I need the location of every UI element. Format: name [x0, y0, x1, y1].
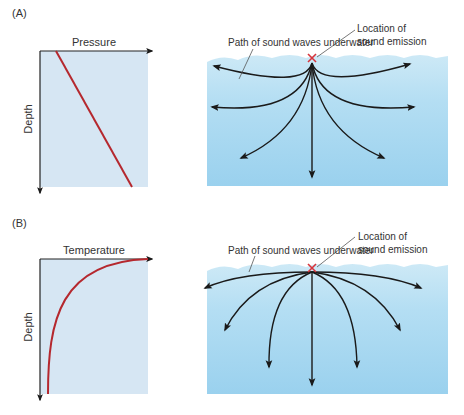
emission-label-line2: sound emission: [357, 36, 426, 47]
x-axis-label: Pressure: [72, 36, 116, 48]
water-diagram-b: Path of sound waves underwater Location …: [205, 231, 448, 394]
pressure-depth-chart: Pressure Depth: [22, 36, 152, 193]
emission-label-line1: Location of: [357, 23, 406, 34]
temperature-depth-chart: Temperature Depth: [22, 244, 152, 400]
diagram-canvas: (A) Pressure Depth: [0, 0, 464, 415]
water-body: [207, 264, 448, 394]
emission-label-line2: sound emission: [358, 244, 427, 255]
path-label: Path of sound waves underwater: [228, 245, 374, 256]
panel-a-label: (A): [12, 7, 27, 19]
chart-background: [40, 259, 148, 394]
x-axis-label: Temperature: [63, 244, 125, 256]
panel-a: (A) Pressure Depth: [12, 7, 448, 193]
water-body: [207, 55, 448, 186]
y-axis-label: Depth: [22, 104, 34, 133]
path-label: Path of sound waves underwater: [228, 37, 374, 48]
panel-b: (B) Temperature Depth: [12, 217, 448, 400]
water-diagram-a: Path of sound waves underwater Location …: [207, 23, 448, 186]
emission-label-line1: Location of: [358, 231, 407, 242]
y-axis-label: Depth: [22, 312, 34, 341]
panel-b-label: (B): [12, 217, 27, 229]
